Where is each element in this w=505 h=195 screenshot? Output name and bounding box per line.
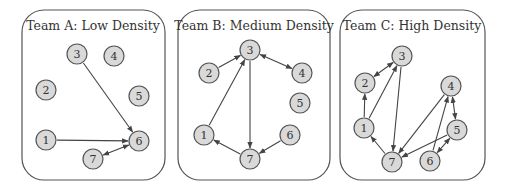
panel-b-node-1: 1 xyxy=(194,125,214,145)
panel-c-node-4: 4 xyxy=(441,76,461,96)
node-label: 1 xyxy=(201,129,208,142)
panel-c-edge-1-2 xyxy=(364,94,365,117)
node-label: 4 xyxy=(299,67,306,80)
panel-team-a: 1234567 Team A: Low Density xyxy=(22,10,165,180)
panel-b-node-7: 7 xyxy=(240,149,260,169)
node-label: 7 xyxy=(389,156,396,169)
panel-c-node-1: 1 xyxy=(354,118,374,138)
panel-team-c: 1234567 Team C: High Density xyxy=(340,10,485,180)
panel-a-node-5: 5 xyxy=(129,86,149,106)
panel-b-node-6: 6 xyxy=(280,125,300,145)
panel-b-node-3: 3 xyxy=(240,40,260,60)
node-label: 1 xyxy=(43,134,50,147)
panel-c-node-3: 3 xyxy=(392,46,412,66)
panel-b-node-4: 4 xyxy=(292,63,312,83)
node-label: 7 xyxy=(90,153,97,166)
panel-b-node-5: 5 xyxy=(290,93,310,113)
node-label: 6 xyxy=(136,135,143,148)
panel-a-node-4: 4 xyxy=(104,46,124,66)
panel-a-node-7: 7 xyxy=(83,149,103,169)
panel-b-title: Team B: Medium Density xyxy=(174,18,334,33)
panel-c-node-2: 2 xyxy=(355,73,375,93)
node-label: 5 xyxy=(136,90,143,103)
panel-a-node-2: 2 xyxy=(36,80,56,100)
panel-a-node-3: 3 xyxy=(67,44,87,64)
panel-b-node-2: 2 xyxy=(199,63,219,83)
node-label: 4 xyxy=(448,80,455,93)
node-label: 2 xyxy=(206,67,213,80)
panel-team-b: 1234567 Team B: Medium Density xyxy=(174,10,334,180)
node-label: 3 xyxy=(399,50,406,63)
node-label: 5 xyxy=(297,97,304,110)
panel-c-node-7: 7 xyxy=(382,152,402,172)
node-label: 6 xyxy=(427,155,434,168)
node-label: 2 xyxy=(362,77,369,90)
panel-a-node-1: 1 xyxy=(36,130,56,150)
panel-a-title: Team A: Low Density xyxy=(26,18,161,33)
panel-c-node-5: 5 xyxy=(447,120,467,140)
panel-a-node-6: 6 xyxy=(129,131,149,151)
node-label: 2 xyxy=(43,84,50,97)
node-label: 3 xyxy=(74,48,81,61)
node-label: 5 xyxy=(454,124,461,137)
panel-c-border xyxy=(340,10,485,180)
node-label: 4 xyxy=(111,50,118,63)
node-label: 1 xyxy=(361,122,368,135)
panel-c-title: Team C: High Density xyxy=(343,18,483,33)
panel-c-node-6: 6 xyxy=(420,151,440,171)
node-label: 6 xyxy=(287,129,294,142)
node-label: 3 xyxy=(247,44,254,57)
node-label: 7 xyxy=(247,153,254,166)
network-density-figure: 1234567 Team A: Low Density 1234567 Team… xyxy=(0,0,505,195)
